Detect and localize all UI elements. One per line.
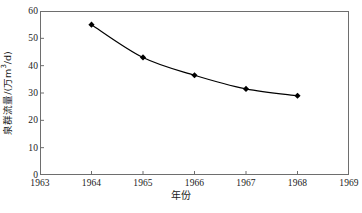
chart-figure: 0 10 20 30 40 50 60 1963 1964 1965 1966 … [0, 0, 362, 213]
plot-area-frame [40, 11, 349, 175]
x-tick-label: 1966 [173, 177, 217, 189]
y-axis-title: 泉群流量/(万m3/d) [2, 51, 13, 135]
y-axis-title-tail: /d) [2, 51, 13, 64]
y-axis-title-exponent: 3 [0, 64, 8, 68]
x-tick-label: 1969 [327, 177, 362, 189]
x-axis-title: 年份 [0, 190, 362, 202]
x-tick-label: 1964 [70, 177, 114, 189]
x-tick-label: 1965 [121, 177, 165, 189]
x-axis-tick-labels: 1963 1964 1965 1966 1967 1968 1969 [0, 177, 362, 191]
x-tick-label: 1963 [18, 177, 62, 189]
x-tick-label: 1967 [224, 177, 268, 189]
y-axis-title-host: 泉群流量/(万m3/d) [0, 11, 14, 175]
y-axis-title-base: 泉群流量/(万m [2, 69, 13, 135]
x-tick-label: 1968 [276, 177, 320, 189]
